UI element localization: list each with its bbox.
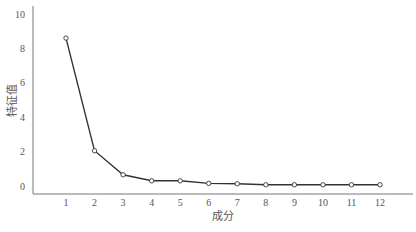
- data-point-marker: [349, 183, 353, 187]
- y-tick-label: 8: [20, 43, 25, 54]
- data-point-marker: [378, 183, 382, 187]
- data-point-marker: [264, 183, 268, 187]
- x-tick-label: 7: [235, 197, 240, 208]
- series-line: [66, 38, 380, 185]
- y-axis: 0246810 特征值: [5, 6, 33, 194]
- data-point-marker: [178, 179, 182, 183]
- x-tick-label: 6: [206, 197, 211, 208]
- x-tick-labels: 123456789101112: [64, 197, 386, 208]
- y-tick-label: 2: [20, 146, 25, 157]
- x-tick-label: 8: [263, 197, 268, 208]
- x-tick-label: 2: [92, 197, 97, 208]
- data-point-marker: [235, 182, 239, 186]
- scree-plot: 0246810 特征值 123456789101112 成分: [0, 0, 416, 232]
- x-tick-label: 10: [318, 197, 328, 208]
- x-axis: 123456789101112 成分: [33, 194, 413, 223]
- data-point-marker: [292, 183, 296, 187]
- y-axis-label: 特征值: [5, 84, 19, 117]
- data-point-marker: [121, 173, 125, 177]
- x-tick-label: 11: [347, 197, 357, 208]
- x-tick-label: 12: [375, 197, 385, 208]
- y-tick-label: 6: [20, 77, 25, 88]
- x-tick-label: 1: [64, 197, 69, 208]
- x-tick-label: 4: [149, 197, 154, 208]
- x-tick-label: 5: [178, 197, 183, 208]
- y-tick-label: 0: [20, 181, 25, 192]
- x-tick-label: 3: [121, 197, 126, 208]
- data-point-marker: [207, 181, 211, 185]
- data-point-marker: [92, 149, 96, 153]
- data-series: [64, 36, 382, 187]
- data-point-marker: [321, 183, 325, 187]
- data-point-marker: [64, 36, 68, 40]
- x-axis-label: 成分: [212, 210, 234, 223]
- y-tick-label: 10: [15, 9, 25, 20]
- x-tick-label: 9: [292, 197, 297, 208]
- y-tick-label: 4: [20, 112, 25, 123]
- data-point-marker: [149, 179, 153, 183]
